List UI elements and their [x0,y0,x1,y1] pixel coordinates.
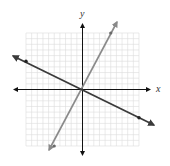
point-gray-upper [109,31,112,34]
point-dark-right [137,116,140,119]
line-dark-slope-neg-half [13,56,154,125]
y-axis-label: y [79,8,85,19]
point-gray-lower [53,144,56,147]
x-axis-label: x [155,83,161,94]
point-dark-left [24,60,27,63]
coordinate-plane: x y [0,0,170,166]
